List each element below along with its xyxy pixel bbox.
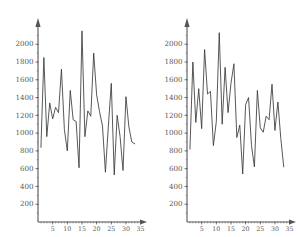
left-y-tick-label: 1000 bbox=[15, 128, 34, 137]
figure-container: 2004006008001000120014001600180020005101… bbox=[0, 0, 298, 237]
left-x-tick-label: 10 bbox=[63, 225, 71, 232]
left-plot-axes bbox=[35, 18, 147, 225]
left-x-tick-label: 5 bbox=[51, 225, 55, 232]
right-plot-panel: 2004006008001000120014001600180020005101… bbox=[149, 0, 298, 237]
right-y-tick-label: 1800 bbox=[164, 57, 183, 66]
right-y-tick-label: 1200 bbox=[164, 111, 183, 120]
right-x-tick-label: 25 bbox=[256, 225, 264, 232]
right-x-tick-label: 35 bbox=[286, 225, 294, 232]
left-y-axis-arrow-icon bbox=[35, 18, 40, 27]
left-y-tick-label: 1600 bbox=[15, 75, 34, 84]
left-x-tick-label: 30 bbox=[122, 225, 130, 232]
left-y-tick-label: 200 bbox=[20, 199, 34, 208]
left-x-tick-label: 15 bbox=[78, 225, 86, 232]
right-y-axis-arrow-icon bbox=[184, 18, 189, 27]
right-y-tick-label: 400 bbox=[169, 182, 183, 191]
right-x-tick-label: 30 bbox=[271, 225, 279, 232]
left-x-tick-label: 25 bbox=[107, 225, 115, 232]
right-x-tick-label: 10 bbox=[212, 225, 220, 232]
left-plot-panel: 2004006008001000120014001600180020005101… bbox=[0, 0, 149, 237]
right-x-tick-label: 20 bbox=[242, 225, 250, 232]
left-y-tick-label: 2000 bbox=[15, 39, 34, 48]
right-y-tick-label: 2000 bbox=[164, 39, 183, 48]
left-y-tick-label: 600 bbox=[20, 164, 34, 173]
left-y-tick-label: 1800 bbox=[15, 57, 34, 66]
right-y-tick-label: 1600 bbox=[164, 75, 183, 84]
left-y-tick-label: 800 bbox=[20, 146, 34, 155]
left-plot-series-line bbox=[41, 31, 135, 175]
left-plot-svg: 2004006008001000120014001600180020005101… bbox=[0, 0, 149, 237]
right-y-tick-label: 1000 bbox=[164, 128, 183, 137]
right-y-tick-label: 800 bbox=[169, 146, 183, 155]
left-x-tick-label: 35 bbox=[137, 225, 145, 232]
right-x-tick-label: 15 bbox=[227, 225, 235, 232]
right-plot-ticks bbox=[185, 35, 290, 224]
right-plot-series-line bbox=[190, 33, 284, 174]
right-x-tick-label: 5 bbox=[200, 225, 204, 232]
right-plot-tick-labels: 2004006008001000120014001600180020005101… bbox=[164, 39, 293, 232]
right-y-tick-label: 200 bbox=[169, 199, 183, 208]
left-x-tick-label: 20 bbox=[93, 225, 101, 232]
right-y-tick-label: 600 bbox=[169, 164, 183, 173]
left-y-tick-label: 1200 bbox=[15, 111, 34, 120]
right-y-tick-label: 1400 bbox=[164, 93, 183, 102]
left-y-tick-label: 1400 bbox=[15, 93, 34, 102]
left-y-tick-label: 400 bbox=[20, 182, 34, 191]
right-plot-svg: 2004006008001000120014001600180020005101… bbox=[149, 0, 298, 237]
